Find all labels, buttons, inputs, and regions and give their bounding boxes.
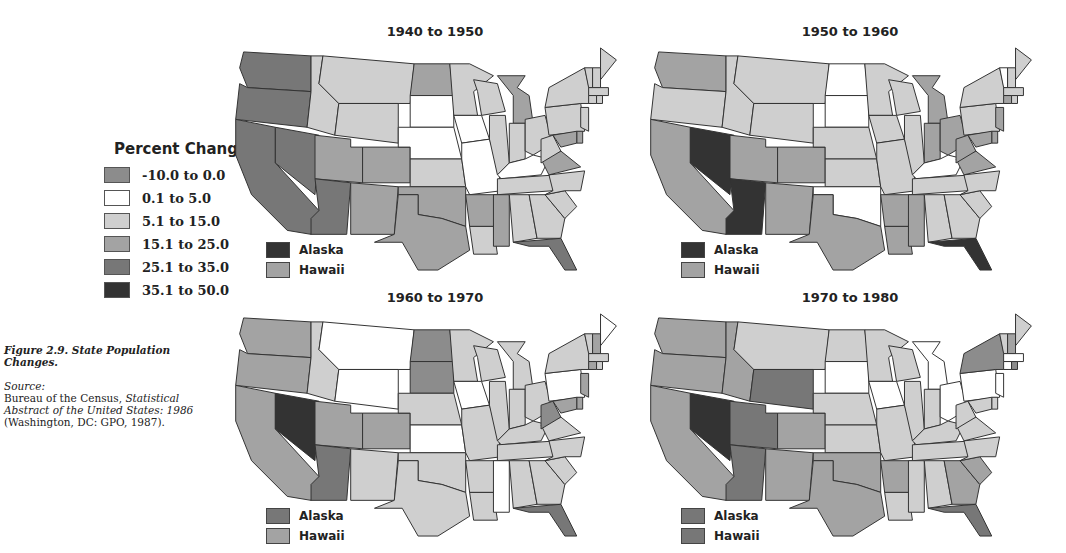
legend-swatch: [104, 213, 130, 229]
state-tn: [497, 441, 556, 461]
state-ks: [825, 425, 881, 453]
state-ks: [825, 159, 881, 187]
state-pa: [960, 103, 1000, 135]
legend-item: -10.0 to 0.0: [104, 164, 234, 186]
state-nd: [825, 330, 869, 362]
state-ut: [730, 401, 778, 449]
state-wy: [335, 369, 398, 409]
state-me: [601, 48, 617, 80]
state-wy: [750, 369, 813, 409]
state-ms: [493, 461, 509, 513]
hawaii-swatch: [266, 262, 290, 278]
state-ct: [589, 362, 597, 370]
state-nh: [593, 334, 601, 354]
state-ms: [493, 195, 509, 247]
state-ma: [1004, 88, 1024, 96]
state-in: [924, 389, 940, 429]
state-mt: [319, 56, 414, 104]
legend-swatch: [104, 236, 130, 252]
legend-swatch: [104, 282, 130, 298]
source-block: Source: Bureau of the Census, Statistica…: [4, 380, 224, 428]
alaska-hawaii-key: Alaska Hawaii: [266, 240, 345, 280]
alaska-swatch: [681, 508, 705, 524]
state-in: [509, 123, 525, 163]
state-ar: [881, 195, 913, 227]
state-ar: [466, 195, 498, 227]
state-ct: [1004, 362, 1012, 370]
state-mt: [319, 322, 414, 370]
state-nm: [351, 183, 399, 235]
state-nm: [766, 449, 814, 501]
state-wi: [474, 80, 506, 116]
state-wa: [655, 52, 726, 92]
legend-title: Percent Change: [114, 140, 234, 158]
state-az: [726, 445, 766, 501]
state-az: [726, 179, 766, 235]
state-ms: [908, 195, 924, 247]
state-nj: [996, 107, 1004, 131]
state-mt: [734, 56, 829, 104]
state-in: [924, 123, 940, 163]
source-label: Source:: [4, 380, 224, 392]
map-1950-1960: 1950 to 1960 Alaska Hawaii: [645, 24, 1055, 286]
state-nj: [581, 373, 589, 397]
state-tn: [497, 175, 556, 195]
state-me: [1016, 48, 1032, 80]
state-ut: [730, 135, 778, 183]
state-ma: [589, 88, 609, 96]
map-1940-1950: 1940 to 1950 Alaska Hawaii: [230, 24, 640, 286]
state-ia: [454, 381, 490, 409]
state-sd: [825, 362, 869, 394]
figure-caption: Figure 2.9. State Population Changes. So…: [4, 344, 224, 428]
legend-swatch: [104, 259, 130, 275]
state-ri: [597, 96, 603, 104]
state-ia: [869, 115, 905, 143]
state-wy: [750, 103, 813, 143]
state-nd: [410, 64, 454, 96]
state-mt: [734, 322, 829, 370]
state-nd: [410, 330, 454, 362]
state-wa: [240, 52, 311, 92]
map-title: 1970 to 1980: [645, 290, 1055, 305]
state-fl: [928, 504, 991, 536]
state-ut: [315, 135, 363, 183]
state-pa: [960, 369, 1000, 401]
state-wa: [240, 318, 311, 358]
state-ma: [1004, 354, 1024, 362]
state-nm: [351, 449, 399, 501]
state-tn: [912, 175, 971, 195]
map-title: 1950 to 1960: [645, 24, 1055, 39]
state-wi: [474, 346, 506, 382]
state-wi: [889, 80, 921, 116]
state-co: [363, 147, 411, 183]
state-nm: [766, 183, 814, 235]
state-az: [311, 179, 351, 235]
hawaii-swatch: [681, 528, 705, 544]
state-ri: [1012, 96, 1018, 104]
alaska-swatch: [681, 242, 705, 258]
state-ar: [881, 461, 913, 493]
alaska-hawaii-key: Alaska Hawaii: [681, 506, 760, 546]
map-1960-1970: 1960 to 1970 Alaska Hawaii: [230, 290, 640, 552]
alaska-hawaii-key: Alaska Hawaii: [681, 240, 760, 280]
state-ks: [410, 425, 466, 453]
map-1970-1980: 1970 to 1980 Alaska Hawaii: [645, 290, 1055, 552]
state-de: [577, 397, 583, 409]
state-nj: [996, 373, 1004, 397]
state-ct: [1004, 96, 1012, 104]
state-pa: [545, 103, 585, 135]
state-me: [1016, 314, 1032, 346]
legend: Percent Change -10.0 to 0.0 0.1 to 5.0 5…: [104, 140, 234, 302]
state-sd: [825, 96, 869, 128]
state-ri: [597, 362, 603, 370]
map-title: 1960 to 1970: [230, 290, 640, 305]
figure-title: Figure 2.9. State Population Changes.: [4, 344, 224, 368]
state-in: [509, 389, 525, 429]
state-nh: [593, 68, 601, 88]
alaska-swatch: [266, 508, 290, 524]
state-sd: [410, 96, 454, 128]
state-nh: [1008, 68, 1016, 88]
legend-item: 5.1 to 15.0: [104, 210, 234, 232]
state-ia: [454, 115, 490, 143]
state-de: [577, 131, 583, 143]
